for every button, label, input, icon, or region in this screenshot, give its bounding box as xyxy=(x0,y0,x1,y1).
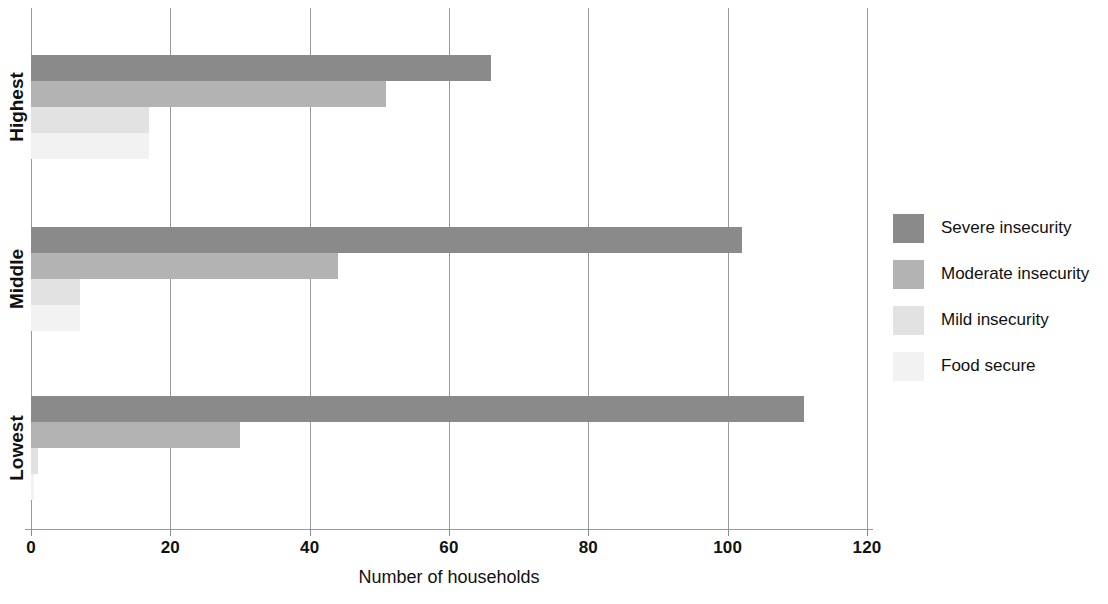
legend: Severe insecurity Moderate insecurity Mi… xyxy=(893,205,1089,389)
bar-highest-mild-insecurity xyxy=(31,107,149,133)
legend-label-mild-insecurity: Mild insecurity xyxy=(941,310,1049,330)
legend-swatch-mild-insecurity xyxy=(893,306,924,335)
x-tick-label-80: 80 xyxy=(558,538,618,558)
x-tick-label-60: 60 xyxy=(419,538,479,558)
bar-lowest-food-secure xyxy=(31,474,34,500)
bar-middle-severe-insecurity xyxy=(31,227,742,253)
x-tick-20 xyxy=(170,529,171,536)
bar-lowest-severe-insecurity xyxy=(31,396,804,422)
bar-middle-moderate-insecurity xyxy=(31,253,338,279)
legend-label-severe-insecurity: Severe insecurity xyxy=(941,218,1071,238)
bar-lowest-mild-insecurity xyxy=(31,448,38,474)
x-tick-label-20: 20 xyxy=(140,538,200,558)
legend-label-moderate-insecurity: Moderate insecurity xyxy=(941,264,1089,284)
legend-item-moderate-insecurity: Moderate insecurity xyxy=(893,251,1089,297)
bar-group-lowest xyxy=(31,396,871,500)
category-label-highest: Highest xyxy=(6,47,28,167)
legend-swatch-food-secure xyxy=(893,352,924,381)
x-tick-60 xyxy=(449,529,450,536)
bar-middle-mild-insecurity xyxy=(31,279,80,305)
x-tick-label-0: 0 xyxy=(1,538,61,558)
bar-chart: Highest Middle Lowest 020406080100120 Nu… xyxy=(0,0,1108,604)
bar-highest-severe-insecurity xyxy=(31,55,491,81)
x-tick-label-120: 120 xyxy=(837,538,897,558)
legend-swatch-severe-insecurity xyxy=(893,214,924,243)
legend-label-food-secure: Food secure xyxy=(941,356,1036,376)
category-label-middle: Middle xyxy=(6,219,28,339)
x-axis-title: Number of households xyxy=(31,567,867,588)
x-tick-80 xyxy=(588,529,589,536)
legend-item-mild-insecurity: Mild insecurity xyxy=(893,297,1089,343)
category-label-lowest: Lowest xyxy=(6,388,28,508)
bar-group-middle xyxy=(31,227,871,331)
x-tick-label-40: 40 xyxy=(280,538,340,558)
legend-item-severe-insecurity: Severe insecurity xyxy=(893,205,1089,251)
bar-lowest-moderate-insecurity xyxy=(31,422,240,448)
bar-middle-food-secure xyxy=(31,305,80,331)
x-tick-100 xyxy=(728,529,729,536)
legend-swatch-moderate-insecurity xyxy=(893,260,924,289)
x-tick-40 xyxy=(310,529,311,536)
bar-highest-food-secure xyxy=(31,133,149,159)
x-tick-0 xyxy=(31,529,32,536)
bar-highest-moderate-insecurity xyxy=(31,81,386,107)
bar-group-highest xyxy=(31,55,871,159)
x-tick-label-100: 100 xyxy=(698,538,758,558)
legend-item-food-secure: Food secure xyxy=(893,343,1089,389)
x-tick-120 xyxy=(867,529,868,536)
